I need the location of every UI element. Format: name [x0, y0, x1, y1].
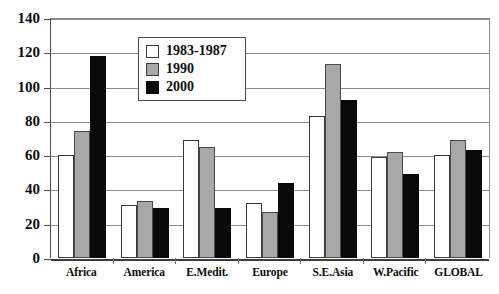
y-axis-tick-mark — [44, 19, 51, 20]
legend-swatch-icon — [146, 81, 159, 94]
bar — [434, 155, 450, 258]
bar — [450, 140, 466, 258]
bar — [371, 157, 387, 258]
y-axis: 140120100806040200 — [0, 0, 40, 294]
bar — [74, 131, 90, 258]
y-axis-tick-label: 100 — [0, 79, 40, 94]
y-axis-tick-mark — [44, 122, 51, 123]
y-axis-tick-mark — [44, 225, 51, 226]
bar-group-s-e-asia — [301, 19, 364, 258]
x-axis-tick-mark — [175, 258, 176, 264]
bar — [278, 183, 294, 258]
legend-swatch-icon — [146, 63, 159, 76]
y-axis-tick-label: 140 — [0, 11, 40, 26]
x-axis-tick-mark — [363, 258, 364, 264]
y-axis-tick-label: 40 — [0, 182, 40, 197]
y-axis-tick-label: 120 — [0, 45, 40, 60]
bar — [199, 147, 215, 258]
x-axis-tick-label: W.Pacific — [364, 266, 427, 288]
y-axis-tick-mark — [44, 156, 51, 157]
chart-legend: 1983-198719902000 — [138, 37, 246, 101]
legend-item: 1983-1987 — [146, 42, 239, 60]
x-axis-tick-label: Africa — [50, 266, 113, 288]
bar-group-global — [426, 19, 489, 258]
gridline — [51, 259, 489, 261]
legend-label: 2000 — [166, 80, 194, 94]
bar — [325, 64, 341, 258]
legend-label: 1990 — [166, 62, 194, 76]
x-axis-tick-mark — [113, 258, 114, 264]
bar — [90, 56, 106, 258]
x-axis-tick-label: E.Medit. — [176, 266, 239, 288]
bar — [341, 100, 357, 258]
y-axis-tick-label: 20 — [0, 216, 40, 231]
bar-group-africa — [51, 19, 114, 258]
bars-layer — [51, 19, 489, 258]
x-axis: AfricaAmericaE.Medit.EuropeS.E.AsiaW.Pac… — [50, 266, 490, 288]
bar-group-w-pacific — [364, 19, 427, 258]
y-axis-tick-mark — [44, 88, 51, 89]
bar — [153, 208, 169, 258]
y-axis-tick-mark — [44, 259, 51, 260]
bar-chart: 140120100806040200 AfricaAmericaE.Medit.… — [0, 0, 499, 294]
bar — [121, 205, 137, 258]
bar — [403, 174, 419, 258]
bar — [387, 152, 403, 258]
bar — [246, 203, 262, 258]
bar — [58, 155, 74, 258]
bar — [183, 140, 199, 258]
x-axis-tick-label: GLOBAL — [427, 266, 490, 288]
bar — [309, 116, 325, 258]
x-axis-tick-mark — [300, 258, 301, 264]
bar — [137, 201, 153, 258]
legend-swatch-icon — [146, 45, 159, 58]
x-axis-tick-label: America — [113, 266, 176, 288]
plot-area — [50, 18, 490, 258]
bar-group-europe — [239, 19, 302, 258]
x-axis-tick-label: S.E.Asia — [301, 266, 364, 288]
y-axis-tick-label: 80 — [0, 113, 40, 128]
legend-label: 1983-1987 — [166, 44, 227, 58]
bar — [262, 212, 278, 258]
x-axis-tick-mark — [238, 258, 239, 264]
y-axis-tick-label: 0 — [0, 251, 40, 266]
y-axis-tick-mark — [44, 53, 51, 54]
y-axis-tick-label: 60 — [0, 148, 40, 163]
bar — [215, 208, 231, 258]
legend-item: 2000 — [146, 78, 239, 96]
legend-item: 1990 — [146, 60, 239, 78]
bar — [466, 150, 482, 258]
x-axis-tick-label: Europe — [239, 266, 302, 288]
x-axis-tick-mark — [425, 258, 426, 264]
y-axis-tick-mark — [44, 190, 51, 191]
